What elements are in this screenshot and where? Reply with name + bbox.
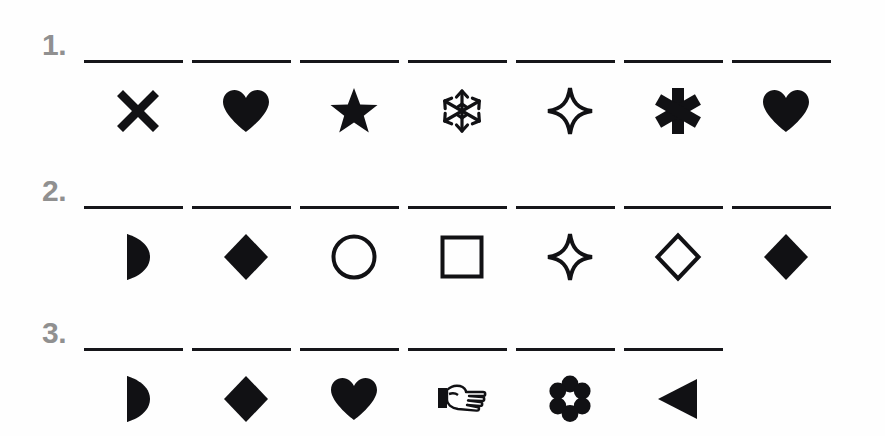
diamond-icon (624, 226, 732, 288)
blank-line[interactable] (192, 206, 291, 209)
blank-line[interactable] (300, 348, 399, 351)
row-number-2: 2. (42, 176, 66, 206)
symbols-row-1 (84, 80, 840, 142)
blank-line[interactable] (192, 348, 291, 351)
blank-line[interactable] (732, 60, 831, 63)
heart-icon (192, 80, 300, 142)
half-moon-icon (84, 368, 192, 430)
blank-line[interactable] (732, 206, 831, 209)
blank-line[interactable] (300, 206, 399, 209)
sparkle-four-point-icon (516, 226, 624, 288)
square-icon (408, 226, 516, 288)
blank-lines-row-3 (84, 348, 723, 351)
diamond-icon (732, 226, 840, 288)
blank-line[interactable] (624, 348, 723, 351)
snowflake-icon (408, 80, 516, 142)
blank-line[interactable] (624, 206, 723, 209)
sparkle-four-point-icon (516, 80, 624, 142)
blank-line[interactable] (516, 206, 615, 209)
heart-icon (732, 80, 840, 142)
flower-icon (516, 368, 624, 430)
blank-line[interactable] (516, 348, 615, 351)
triangle-left-icon (624, 368, 732, 430)
cross-x-icon (84, 80, 192, 142)
diamond-icon (192, 226, 300, 288)
row-number-1: 1. (42, 30, 66, 60)
pointing-hand-icon (408, 368, 516, 430)
symbols-row-2 (84, 226, 840, 288)
asterisk-icon (624, 80, 732, 142)
blank-line[interactable] (84, 60, 183, 63)
blank-line[interactable] (408, 348, 507, 351)
blank-line[interactable] (408, 206, 507, 209)
blank-line[interactable] (84, 206, 183, 209)
heart-icon (300, 368, 408, 430)
blank-line[interactable] (408, 60, 507, 63)
blank-line[interactable] (624, 60, 723, 63)
symbols-row-3 (84, 368, 732, 430)
blank-lines-row-2 (84, 206, 831, 209)
diamond-icon (192, 368, 300, 430)
circle-icon (300, 226, 408, 288)
blank-line[interactable] (300, 60, 399, 63)
blank-line[interactable] (84, 348, 183, 351)
row-number-3: 3. (42, 318, 66, 348)
worksheet: 1. (0, 0, 885, 436)
blank-lines-row-1 (84, 60, 831, 63)
half-moon-icon (84, 226, 192, 288)
blank-line[interactable] (516, 60, 615, 63)
blank-line[interactable] (192, 60, 291, 63)
star-five-point-icon (300, 80, 408, 142)
